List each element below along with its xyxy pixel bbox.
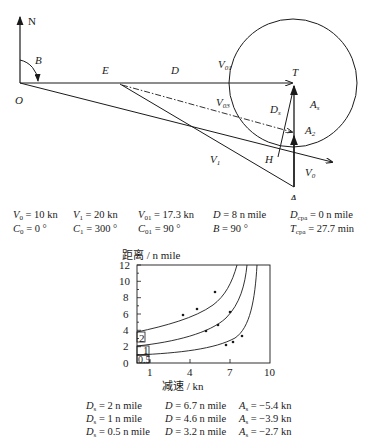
result-row-3: Ds = 0.5 n mile D = 3.2 n mile As = −2.7… bbox=[0, 426, 373, 438]
y-tick-2: 2 bbox=[123, 340, 129, 352]
curve-label-0.5: 0.5 bbox=[138, 354, 151, 365]
vector-diagram: N B O E D T V01 V03 Ds As A2 H V1 V0 A bbox=[0, 0, 373, 200]
data-markers bbox=[182, 291, 244, 347]
curve-ds-2 bbox=[137, 265, 237, 332]
label-B: B bbox=[35, 54, 42, 66]
result-d: D = 4.6 n mile bbox=[165, 413, 226, 424]
result-as: As = −5.4 kn bbox=[239, 400, 292, 411]
result-ds: Ds = 2 n mile bbox=[86, 400, 142, 411]
label-T: T bbox=[292, 66, 299, 78]
label-V03: V03 bbox=[216, 96, 230, 110]
y-tick-6: 6 bbox=[123, 308, 129, 320]
result-d: D = 3.2 n mile bbox=[165, 426, 226, 437]
param-c1: C1 = 300 ° bbox=[73, 223, 117, 234]
x-tick-10: 10 bbox=[264, 366, 276, 378]
y-tick-10: 10 bbox=[119, 275, 131, 287]
x-tick-4: 4 bbox=[187, 366, 193, 378]
result-as: As = −3.9 kn bbox=[239, 413, 292, 424]
label-V0: V0 bbox=[305, 166, 316, 180]
label-V1: V1 bbox=[210, 153, 220, 167]
param-c01: C01 = 90 ° bbox=[138, 223, 181, 234]
param-dcpa: Dcpa = 0 n mile bbox=[290, 209, 353, 220]
x-tick-7: 7 bbox=[227, 366, 233, 378]
curve-ds-0.5 bbox=[137, 265, 257, 355]
param-v0: V0 = 10 kn bbox=[13, 209, 58, 220]
label-V01: V01 bbox=[218, 58, 232, 72]
label-D: D bbox=[170, 64, 179, 76]
plot-frame bbox=[137, 265, 270, 363]
result-as: As = −2.7 kn bbox=[239, 426, 292, 437]
parameter-row-2: C0 = 0 ° C1 = 300 ° C01 = 90 ° B = 90 ° … bbox=[0, 223, 373, 237]
label-O: O bbox=[15, 94, 23, 106]
line-V03 bbox=[122, 85, 292, 132]
result-ds: Ds = 1 n mile bbox=[86, 413, 142, 424]
label-As: As bbox=[309, 98, 320, 112]
x-tick-1: 1 bbox=[147, 366, 153, 378]
curve-label-boxes bbox=[137, 332, 149, 363]
label-A: A bbox=[289, 192, 297, 200]
param-d: D = 8 n mile bbox=[213, 209, 266, 220]
label-E: E bbox=[101, 64, 109, 76]
y-axis bbox=[137, 265, 141, 355]
curve-label-1: 1 bbox=[143, 344, 149, 356]
label-Ds: Ds bbox=[269, 103, 281, 117]
result-row-1: Ds = 2 n mile D = 6.7 n mile As = −5.4 k… bbox=[0, 400, 373, 413]
y-tick-12: 12 bbox=[119, 259, 130, 271]
line-EA bbox=[120, 84, 294, 187]
param-tcpa: Tcpa = 27.7 min bbox=[290, 223, 354, 234]
label-H: H bbox=[264, 153, 274, 165]
y-tick-0: 0 bbox=[123, 357, 129, 369]
curve-label-2: 2 bbox=[139, 332, 145, 344]
result-row-2: Ds = 1 n mile D = 4.6 n mile As = −3.9 k… bbox=[0, 413, 373, 426]
result-ds: Ds = 0.5 n mile bbox=[86, 426, 150, 437]
x-axis bbox=[150, 359, 230, 363]
param-c0: C0 = 0 ° bbox=[13, 223, 47, 234]
result-d: D = 6.7 n mile bbox=[165, 400, 226, 411]
chart-xlabel: 减速 / kn bbox=[162, 380, 204, 392]
curve-ds-1 bbox=[137, 265, 247, 346]
param-v1: V1 = 20 kn bbox=[73, 209, 118, 220]
y-tick-4: 4 bbox=[123, 324, 129, 336]
label-A2: A2 bbox=[304, 124, 316, 138]
parameter-row-1: V0 = 10 kn V1 = 20 kn V01 = 17.3 kn D = … bbox=[0, 209, 373, 223]
param-b: B = 90 ° bbox=[213, 223, 248, 234]
y-tick-8: 8 bbox=[123, 291, 129, 303]
chart-ylabel: 距离 / n mile bbox=[122, 248, 180, 261]
label-N: N bbox=[28, 15, 36, 27]
line-OV0 bbox=[20, 83, 332, 162]
param-v01: V01 = 17.3 kn bbox=[138, 209, 194, 220]
